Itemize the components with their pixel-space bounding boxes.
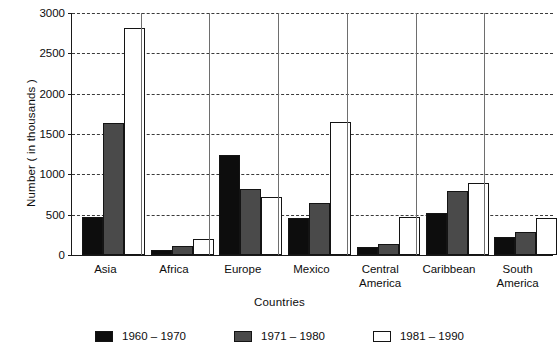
x-axis-category-label: South America [483,263,552,290]
bar [378,244,399,255]
bar [82,217,103,255]
group-separator [141,13,142,255]
legend-item: 1981 – 1990 [373,330,464,342]
bar [172,246,193,255]
legend-swatch [373,331,391,342]
y-tick-mark [68,13,72,14]
legend-item: 1971 – 1980 [234,330,325,342]
bar [494,237,515,255]
bar [447,191,468,255]
y-tick-label: 1500 [39,128,65,140]
x-axis-category-label: Central America [346,263,415,290]
x-axis-category-label: Caribbean [415,263,484,277]
bar [151,250,172,255]
x-axis-category-label: Africa [140,263,209,277]
legend-item: 1960 – 1970 [95,330,186,342]
chart-legend: 1960 – 19701971 – 19801981 – 1990 [0,330,559,342]
bar-group [151,13,214,255]
bar [240,189,261,255]
y-axis-title: Number ( in thousands ) [25,33,37,253]
x-axis-title: Countries [0,296,559,308]
bar [103,123,124,255]
y-tick-label: 0 [59,249,65,261]
y-tick-mark [68,53,72,54]
y-tick-mark [68,174,72,175]
group-separator [416,13,417,255]
bar-group [357,13,420,255]
group-separator [484,13,485,255]
y-tick-mark [68,134,72,135]
bar [219,155,240,255]
bar [288,218,309,255]
y-tick-label: 1000 [39,168,65,180]
y-tick-label: 2500 [39,47,65,59]
bar [399,217,420,255]
bar-group [494,13,557,255]
bar-group [219,13,282,255]
y-tick-label: 500 [46,209,65,221]
bar [426,213,447,255]
x-axis-category-label: Mexico [277,263,346,277]
y-tick-mark [68,94,72,95]
bar-chart: Number ( in thousands ) 0500100015002000… [0,0,559,357]
y-tick-label: 3000 [39,7,65,19]
group-separator [347,13,348,255]
bar [261,197,282,255]
bar [309,203,330,255]
group-separator [278,13,279,255]
bar [468,183,489,255]
bar [357,247,378,255]
legend-label: 1960 – 1970 [122,330,186,342]
legend-swatch [95,331,113,342]
bar-group [288,13,351,255]
y-tick-mark [68,215,72,216]
bar [124,28,145,255]
legend-label: 1981 – 1990 [400,330,464,342]
bar-group [82,13,145,255]
plot-area: 050010001500200025003000 [71,13,553,256]
x-axis-category-label: Asia [71,263,140,277]
legend-label: 1971 – 1980 [261,330,325,342]
legend-swatch [234,331,252,342]
bar [193,239,214,255]
bar-group [426,13,489,255]
group-separator [209,13,210,255]
bar [515,232,536,255]
y-tick-label: 2000 [39,88,65,100]
x-axis-category-label: Europe [208,263,277,277]
bar [536,218,557,255]
bar [330,122,351,255]
y-tick-mark [68,255,72,256]
